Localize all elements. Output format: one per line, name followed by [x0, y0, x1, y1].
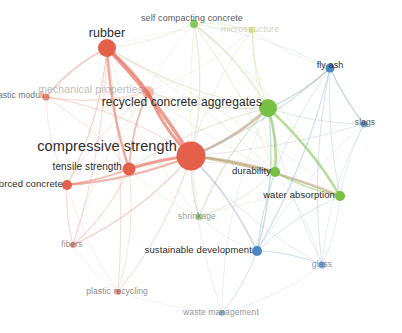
network-edge	[107, 48, 268, 108]
network-edge	[118, 292, 222, 313]
network-edge	[129, 169, 199, 217]
network-edge	[46, 48, 107, 97]
network-edge	[194, 24, 268, 108]
network-node-shrinkage[interactable]	[196, 214, 203, 221]
network-node-sustainable-development[interactable]	[252, 246, 262, 256]
network-node-reinforced-concrete[interactable]	[62, 180, 72, 190]
network-node-plastic-recycling[interactable]	[115, 289, 121, 295]
network-node-elastic-moduli[interactable]	[43, 94, 50, 101]
network-edge	[252, 30, 268, 108]
network-node-waste-management[interactable]	[219, 310, 225, 316]
network-edge	[46, 92, 148, 100]
network-node-tensile-strength[interactable]	[123, 163, 136, 176]
network-edge	[73, 92, 148, 245]
network-edge	[67, 92, 148, 185]
edges-layer	[46, 23, 364, 313]
network-edge	[322, 196, 340, 265]
network-edge	[107, 24, 194, 48]
network-edge	[191, 156, 222, 313]
network-node-durability[interactable]	[270, 167, 280, 177]
network-edge	[73, 48, 107, 245]
network-node-fly-ash[interactable]	[326, 64, 335, 73]
network-node-self-compacting-concrete[interactable]	[190, 20, 198, 28]
network-node-recycled-concrete-aggregates[interactable]	[259, 99, 277, 117]
network-edge	[73, 245, 118, 292]
network-node-microstructure[interactable]	[249, 27, 256, 34]
network-map-canvas[interactable]: compressive strengthrubberrecycled concr…	[0, 0, 402, 333]
network-edge	[107, 48, 340, 196]
network-edge	[257, 251, 322, 265]
network-node-mechanical-properties[interactable]	[142, 86, 154, 98]
network-node-rubber[interactable]	[98, 39, 116, 57]
network-edge	[67, 48, 107, 185]
network-edge	[222, 265, 322, 313]
network-node-water-absorption[interactable]	[335, 191, 345, 201]
network-edge	[129, 92, 148, 169]
network-node-compressive-strength[interactable]	[177, 142, 206, 171]
network-node-glass[interactable]	[319, 262, 326, 269]
network-graph	[0, 0, 402, 333]
network-edge	[46, 97, 67, 185]
network-node-fibers[interactable]	[70, 242, 76, 248]
network-edge	[46, 97, 129, 169]
network-edge	[330, 68, 364, 124]
network-node-slags[interactable]	[361, 121, 368, 128]
